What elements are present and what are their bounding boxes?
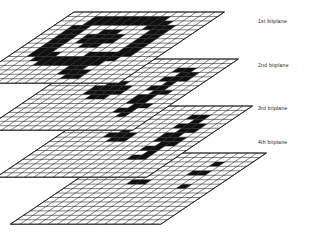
- label-1st-bitplane: 1st bitplane: [258, 18, 287, 24]
- bitplane-figure: 1st bitplane 2nd bitplane 3rd bitplane 4…: [0, 0, 315, 237]
- label-4th-bitplane: 4th bitplane: [258, 139, 287, 145]
- label-2nd-bitplane: 2nd bitplane: [258, 62, 289, 68]
- label-svg: 1st bitplane 2nd bitplane 3rd bitplane 4…: [0, 0, 315, 237]
- label-3rd-bitplane: 3rd bitplane: [258, 105, 288, 111]
